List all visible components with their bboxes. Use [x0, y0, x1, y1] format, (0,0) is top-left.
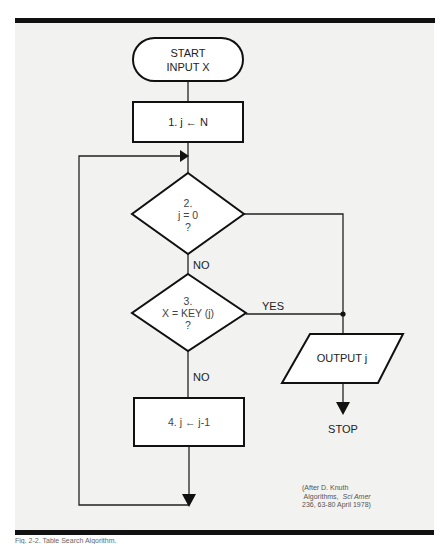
junction-dot — [340, 311, 345, 316]
decision2-no-label: NO — [193, 259, 210, 271]
output-label: OUTPUT j — [317, 352, 368, 364]
start-terminator — [133, 38, 243, 81]
arrow-down-icon — [336, 402, 350, 415]
decision2-number: 2. — [184, 197, 193, 209]
citation-journal: Sci Amer — [342, 493, 370, 500]
decision3-number: 3. — [184, 295, 193, 307]
stop-label: STOP — [328, 423, 358, 435]
decision3-yes-label: YES — [262, 300, 284, 312]
decision3-no-label: NO — [193, 371, 210, 383]
decision3-question: ? — [185, 319, 191, 331]
input-label: INPUT X — [166, 61, 210, 73]
step4-label: 4. j ← j-1 — [168, 416, 210, 428]
citation-line1: (After D. Knuth — [302, 484, 348, 491]
decision2-question: ? — [185, 221, 191, 233]
step1-label: 1. j ← N — [168, 116, 208, 128]
decision2-expression: j = 0 — [177, 209, 198, 221]
citation: (After D. Knuth Algorithms, Sci Amer 236… — [302, 484, 371, 510]
figure-caption: Fig. 2-2. Table Search Algorithm. — [15, 537, 116, 544]
citation-line2a: Algorithms, — [302, 493, 342, 500]
start-label: START — [170, 47, 205, 59]
connector-decision2-yes — [244, 214, 343, 334]
citation-line3: 236, 63-80 April 1978) — [302, 501, 371, 508]
decision3-expression: X = KEY (j) — [162, 307, 214, 319]
